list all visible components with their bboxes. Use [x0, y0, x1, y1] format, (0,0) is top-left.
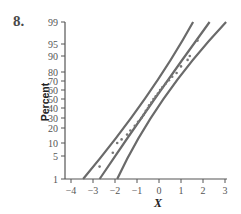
data-point — [175, 72, 178, 75]
probability-plot: 151020304050607080909599−4−3−2−10123 — [0, 0, 241, 214]
data-point — [164, 83, 167, 86]
data-point — [150, 101, 153, 104]
y-tick-label: 20 — [48, 123, 58, 134]
data-point — [148, 104, 151, 107]
data-point — [147, 107, 150, 110]
data-point — [120, 138, 123, 141]
y-tick-label: 90 — [48, 51, 58, 62]
data-point — [140, 117, 143, 120]
x-tick-label: 2 — [201, 185, 206, 196]
data-point — [116, 142, 119, 145]
data-point — [142, 114, 145, 117]
data-point — [152, 98, 155, 101]
y-tick-label: 5 — [53, 151, 58, 162]
data-point — [161, 86, 164, 89]
lower-band — [83, 22, 193, 179]
axes: 151020304050607080909599−4−3−2−10123 — [48, 17, 228, 197]
data-point — [180, 65, 183, 68]
fit-line — [100, 22, 210, 179]
data-point — [145, 110, 148, 113]
x-tick-label: 3 — [223, 185, 228, 196]
data-point — [137, 120, 140, 123]
upper-band — [117, 22, 226, 179]
y-tick-label: 10 — [48, 138, 58, 149]
data-point — [159, 89, 162, 92]
data-point — [112, 152, 115, 155]
x-tick-label: −4 — [66, 185, 77, 196]
y-tick-label: 1 — [53, 174, 58, 185]
y-tick-label: 95 — [48, 39, 58, 50]
confidence-bands — [83, 22, 226, 179]
data-point — [196, 39, 199, 42]
x-tick-label: −1 — [132, 185, 143, 196]
x-tick-label: −2 — [110, 185, 121, 196]
y-tick-label: 80 — [48, 67, 58, 78]
x-tick-label: 1 — [179, 185, 184, 196]
data-point — [134, 125, 137, 128]
x-tick-label: 0 — [157, 185, 162, 196]
data-point — [168, 79, 171, 82]
y-tick-label: 99 — [48, 17, 58, 28]
data-point — [186, 59, 189, 62]
data-point — [171, 75, 174, 78]
data-point — [189, 55, 192, 58]
data-point — [129, 129, 132, 132]
data-point — [98, 165, 101, 168]
x-tick-label: −3 — [88, 185, 99, 196]
data-point — [154, 95, 157, 98]
data-point — [157, 92, 160, 95]
data-point — [126, 133, 129, 136]
y-tick-label: 30 — [48, 113, 58, 124]
